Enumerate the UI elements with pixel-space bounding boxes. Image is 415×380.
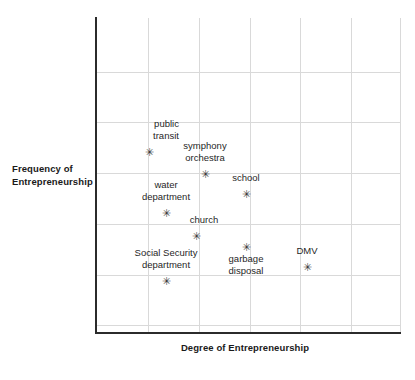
chart-canvas: ✳public transit✳symphony orchestra✳schoo… (0, 0, 415, 380)
data-point-church: ✳ (192, 231, 201, 240)
point-label-social-security-department: Social Security department (135, 247, 198, 270)
gridline-vertical-4 (351, 18, 352, 333)
asterisk-marker-icon: ✳ (162, 208, 171, 217)
y-axis-line (95, 17, 97, 334)
data-point-garbage-disposal: ✳ (242, 242, 251, 251)
x-axis-line (95, 332, 401, 334)
point-label-symphony-orchestra: symphony orchestra (183, 140, 226, 163)
point-label-public-transit: public transit (153, 118, 179, 141)
point-label-garbage-disposal: garbage disposal (229, 253, 264, 276)
point-label-church: church (190, 214, 219, 226)
asterisk-marker-icon: ✳ (192, 231, 201, 240)
asterisk-marker-icon: ✳ (242, 189, 251, 198)
asterisk-marker-icon: ✳ (303, 262, 312, 271)
gridline-vertical-0 (148, 18, 149, 333)
gridline-vertical-5 (400, 18, 401, 333)
gridline-horizontal-5 (96, 325, 400, 326)
gridline-horizontal-0 (96, 72, 400, 73)
data-point-water-department: ✳ (162, 208, 171, 217)
point-label-dmv: DMV (296, 245, 317, 257)
gridline-vertical-3 (300, 18, 301, 333)
asterisk-marker-icon: ✳ (162, 276, 171, 285)
gridline-horizontal-3 (96, 224, 400, 225)
data-point-public-transit: ✳ (145, 147, 154, 156)
asterisk-marker-icon: ✳ (242, 242, 251, 251)
asterisk-marker-icon: ✳ (145, 147, 154, 156)
data-point-school: ✳ (242, 189, 251, 198)
point-label-school: school (232, 172, 259, 184)
gridline-horizontal-1 (96, 122, 400, 123)
y-axis-title: Frequency of Entrepreneurship (12, 163, 94, 188)
x-axis-title: Degree of Entrepreneurship (150, 342, 340, 355)
data-point-symphony-orchestra: ✳ (201, 169, 210, 178)
data-point-social-security-department: ✳ (162, 276, 171, 285)
point-label-water-department: water department (142, 179, 190, 202)
data-point-dmv: ✳ (303, 262, 312, 271)
asterisk-marker-icon: ✳ (201, 169, 210, 178)
